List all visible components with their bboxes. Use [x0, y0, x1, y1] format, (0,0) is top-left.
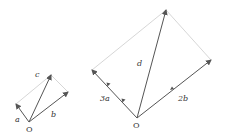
right-parallelogram: 3a 2b d O: [92, 10, 211, 130]
label-a: a: [15, 115, 20, 124]
origin-label-left: O: [26, 125, 33, 134]
label-3a: 3a: [100, 94, 110, 103]
vector-b: [29, 92, 68, 122]
vector-diagram: a b c O 3a 2b d O: [0, 0, 225, 137]
left-parallelogram: a b c O: [15, 70, 68, 134]
label-b: b: [51, 110, 56, 119]
vector-3a: [92, 70, 137, 118]
guide-line: [51, 75, 68, 92]
label-2b: 2b: [177, 94, 188, 103]
guide-line: [166, 10, 211, 60]
label-d: d: [137, 59, 142, 68]
guide-line: [16, 75, 51, 104]
vector-c: [29, 75, 51, 122]
label-c: c: [35, 70, 40, 79]
origin-label-right: O: [133, 121, 140, 130]
guide-line: [92, 10, 166, 70]
